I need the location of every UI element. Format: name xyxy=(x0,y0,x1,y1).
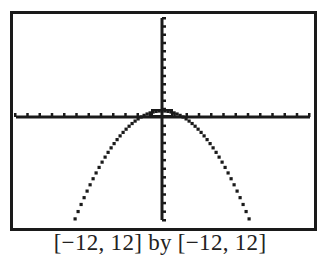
curve-pixel xyxy=(212,146,215,149)
y-tick xyxy=(162,202,166,205)
y-tick xyxy=(162,75,166,78)
curve-pixel xyxy=(233,183,236,186)
y-tick xyxy=(162,91,166,94)
curve-pixel xyxy=(128,125,131,128)
y-tick xyxy=(162,42,166,45)
x-tick xyxy=(75,113,78,117)
y-tick xyxy=(162,25,166,28)
curve-pixel xyxy=(218,156,221,159)
curve-pixel xyxy=(143,114,146,117)
y-tick xyxy=(162,210,166,213)
curve-pixel xyxy=(119,134,122,137)
y-tick xyxy=(162,168,166,171)
y-tick xyxy=(162,50,166,53)
y-tick xyxy=(162,176,166,179)
x-tick xyxy=(247,113,250,117)
curve-pixel xyxy=(206,138,209,141)
x-tick xyxy=(124,113,127,117)
x-tick xyxy=(100,113,103,117)
y-tick xyxy=(162,100,166,103)
x-tick xyxy=(63,113,66,117)
y-tick xyxy=(162,83,166,86)
y-tick xyxy=(162,67,166,70)
curve-pixel xyxy=(131,122,134,125)
y-tick xyxy=(162,150,166,153)
curve-pixel xyxy=(182,115,185,118)
x-tick xyxy=(14,113,17,117)
curve-pixel xyxy=(80,203,83,206)
curve-pixel xyxy=(83,196,86,199)
curve-pixel xyxy=(239,196,242,199)
curve-pixel xyxy=(179,114,182,117)
x-tick xyxy=(271,113,274,117)
curve-pixel xyxy=(137,117,140,120)
window-caption: [−12, 12] by [−12, 12] xyxy=(0,230,320,256)
curve-pixel xyxy=(116,138,119,141)
curve-pixel xyxy=(113,142,116,145)
x-tick xyxy=(308,113,311,117)
curve-pixel xyxy=(77,210,80,213)
y-tick xyxy=(162,159,166,162)
curve-pixel xyxy=(230,177,233,180)
curve-pixel xyxy=(95,171,98,174)
x-tick xyxy=(235,113,238,117)
curve-pixel xyxy=(224,166,227,169)
curve-pixel xyxy=(227,171,230,174)
x-tick xyxy=(112,113,115,117)
curve-pixel xyxy=(110,146,113,149)
curve-pixel xyxy=(248,217,251,220)
x-tick xyxy=(39,113,42,117)
x-tick xyxy=(210,113,213,117)
curve-pixel xyxy=(74,217,77,220)
curve-pixel xyxy=(107,151,110,154)
curve-pixel xyxy=(140,115,143,118)
curve-pixel xyxy=(104,156,107,159)
curve-pixel xyxy=(101,161,104,164)
curve-pixel xyxy=(185,117,188,120)
x-tick xyxy=(88,113,91,117)
graph-plot xyxy=(0,0,320,264)
curve-pixel xyxy=(194,125,197,128)
curve-pixel xyxy=(215,151,218,154)
y-tick xyxy=(162,185,166,188)
curve-pixel xyxy=(92,177,95,180)
x-tick xyxy=(259,113,262,117)
curve-pixel xyxy=(98,166,101,169)
curve-pixel xyxy=(188,119,191,122)
y-tick xyxy=(162,193,166,196)
x-tick xyxy=(186,113,189,117)
y-tick xyxy=(162,125,166,128)
curve-pixel xyxy=(203,134,206,137)
y-tick xyxy=(162,17,166,20)
x-tick xyxy=(137,113,140,117)
y-tick xyxy=(162,34,166,37)
x-tick xyxy=(26,113,29,117)
curve-pixel xyxy=(146,112,149,115)
curve-pixel xyxy=(176,112,179,115)
curve-pixel xyxy=(122,131,125,134)
curve-pixel xyxy=(191,122,194,125)
curve-pixel xyxy=(197,128,200,131)
x-tick xyxy=(284,113,287,117)
x-tick xyxy=(222,113,225,117)
curve-pixel xyxy=(221,161,224,164)
y-tick xyxy=(162,133,166,136)
x-tick xyxy=(51,113,54,117)
curve-pixel xyxy=(236,189,239,192)
curve-pixel xyxy=(134,119,137,122)
x-tick xyxy=(198,113,201,117)
curve-pixel xyxy=(86,189,89,192)
curve-pixel xyxy=(125,128,128,131)
curve-pixel xyxy=(209,142,212,145)
curve-pixel xyxy=(245,210,248,213)
curve-pixel xyxy=(200,131,203,134)
y-tick xyxy=(162,219,166,222)
curve-pixel xyxy=(242,203,245,206)
curve-pixel xyxy=(89,183,92,186)
y-tick xyxy=(162,58,166,61)
y-tick xyxy=(162,142,166,145)
x-tick xyxy=(296,113,299,117)
